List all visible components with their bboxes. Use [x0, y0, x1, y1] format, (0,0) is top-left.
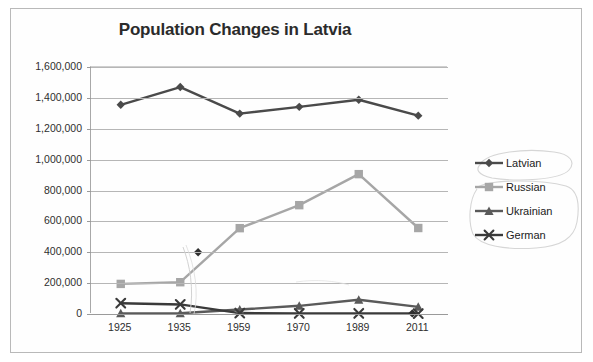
marker-russian-2011: [414, 224, 422, 232]
chart-legend: LatvianRussianUkrainianGerman: [474, 152, 586, 256]
legend-symbol-square-icon: [474, 180, 504, 194]
legend-item-ukrainian[interactable]: Ukrainian: [474, 200, 552, 222]
y-tick-mark: [87, 160, 91, 161]
marker-latvian-1959: [236, 109, 244, 117]
legend-symbol-x-icon: [474, 228, 504, 242]
y-tick-label: 1,400,000: [4, 90, 86, 104]
y-tick-label: 0: [4, 306, 86, 320]
y-tick-label: 1,200,000: [4, 121, 86, 135]
gridline: [91, 98, 448, 99]
x-tick-label: 2011: [406, 320, 429, 334]
y-tick-mark: [87, 98, 91, 99]
legend-label-german: German: [506, 229, 546, 241]
y-axis-tick-labels: 0200,000400,000600,000800,0001,000,0001,…: [4, 66, 86, 313]
y-tick-mark: [87, 191, 91, 192]
x-axis-line: [91, 314, 448, 315]
x-tick-label: 1925: [108, 320, 131, 334]
y-tick-mark: [87, 283, 91, 284]
gridline: [91, 221, 448, 222]
x-tick-label: 1935: [168, 320, 191, 334]
legend-symbol-diamond-icon: [474, 156, 504, 170]
x-tick-label: 1970: [287, 320, 310, 334]
y-tick-mark: [87, 252, 91, 253]
y-tick-text: 1,200,000: [4, 121, 82, 135]
legend-item-russian[interactable]: Russian: [474, 176, 546, 198]
x-tick-label: 1989: [346, 320, 369, 334]
marker-russian-1970: [295, 201, 303, 209]
y-tick-text: 0: [4, 306, 82, 320]
x-axis-tick-labels: 192519351959197019892011: [90, 320, 447, 338]
legend-symbol-triangle-icon: [474, 204, 504, 218]
y-tick-label: 600,000: [4, 213, 86, 227]
y-tick-mark: [87, 221, 91, 222]
y-tick-mark: [87, 314, 91, 315]
y-tick-mark: [87, 67, 91, 68]
series-line-latvian: [121, 87, 419, 116]
legend-marker-russian: [485, 183, 493, 191]
gridline: [91, 191, 448, 192]
marker-russian-1989: [355, 170, 363, 178]
y-tick-text: 600,000: [4, 213, 82, 227]
legend-item-german[interactable]: German: [474, 224, 546, 246]
chart-title: Population Changes in Latvia: [0, 20, 470, 40]
y-tick-text: 800,000: [4, 183, 82, 197]
y-tick-label: 800,000: [4, 183, 86, 197]
legend-label-russian: Russian: [506, 181, 546, 193]
legend-label-latvian: Latvian: [506, 157, 541, 169]
y-tick-text: 1,600,000: [4, 59, 82, 73]
marker-latvian-1935: [176, 83, 184, 91]
marker-latvian-1925: [117, 101, 125, 109]
y-tick-text: 200,000: [4, 275, 82, 289]
y-tick-text: 1,000,000: [4, 152, 82, 166]
gridline: [91, 160, 448, 161]
screenshot-frame: Population Changes in Latvia 0200,000400…: [0, 0, 593, 362]
marker-latvian-1970: [295, 103, 303, 111]
plot-area: [90, 66, 447, 313]
y-tick-mark: [87, 129, 91, 130]
marker-russian-1959: [236, 224, 244, 232]
y-tick-label: 1,000,000: [4, 152, 86, 166]
y-tick-text: 1,400,000: [4, 90, 82, 104]
y-tick-label: 400,000: [4, 244, 86, 258]
y-tick-label: 1,600,000: [4, 59, 86, 73]
x-tick-label: 1959: [227, 320, 250, 334]
marker-latvian-1989: [355, 96, 363, 104]
gridline: [91, 283, 448, 284]
gridline: [91, 129, 448, 130]
series-line-ukrainian: [121, 300, 419, 314]
legend-item-latvian[interactable]: Latvian: [474, 152, 541, 174]
y-tick-label: 200,000: [4, 275, 86, 289]
legend-label-ukrainian: Ukrainian: [506, 205, 552, 217]
gridline: [91, 252, 448, 253]
y-tick-text: 400,000: [4, 244, 82, 258]
marker-latvian-2011: [414, 111, 422, 119]
legend-marker-latvian: [485, 159, 493, 167]
gridline: [91, 67, 448, 68]
